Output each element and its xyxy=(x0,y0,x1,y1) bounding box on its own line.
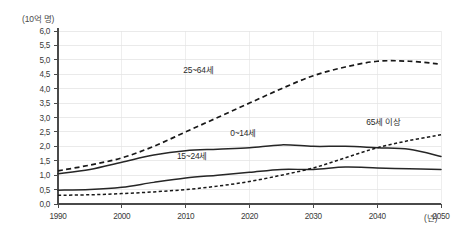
y-tick-label: 0,0 xyxy=(40,200,51,209)
y-tick-label: 3,0 xyxy=(40,114,51,123)
y-tick-label: 1,5 xyxy=(40,157,51,166)
y-tick-label: 4,0 xyxy=(40,85,51,94)
x-tick-label: 2030 xyxy=(305,212,323,221)
series-label: 0~14세 xyxy=(230,128,256,138)
y-tick-label: 0,5 xyxy=(40,186,51,195)
y-tick-label: 5,5 xyxy=(40,41,51,50)
series-label: 15~24세 xyxy=(177,151,207,161)
chart-plot-area: 0,00,51,01,52,02,53,03,54,04,55,05,56,0 … xyxy=(0,0,455,232)
population-projection-chart: (10억 명) 0,00,51,01,52,02,53,03,54,04,55,… xyxy=(0,0,455,232)
x-axis-unit-label: (년) xyxy=(424,213,438,223)
y-tick-label: 5,0 xyxy=(40,56,51,65)
y-tick-label: 3,5 xyxy=(40,99,51,108)
x-tick-label: 2020 xyxy=(241,212,259,221)
x-tick-label: 1990 xyxy=(49,212,67,221)
y-tick-label: 1,0 xyxy=(40,171,51,180)
x-tick-label: 2010 xyxy=(177,212,195,221)
x-tick-label: 2000 xyxy=(113,212,131,221)
y-axis-tick-labels: 0,00,51,01,52,02,53,03,54,04,55,05,56,0 xyxy=(40,27,51,209)
y-tick-label: 4,5 xyxy=(40,70,51,79)
y-tick-label: 6,0 xyxy=(40,27,51,36)
x-tick-label: 2040 xyxy=(369,212,387,221)
y-tick-label: 2,0 xyxy=(40,142,51,151)
x-axis-tick-labels: 1990200020102020203020402050 xyxy=(49,212,450,221)
y-tick-label: 2,5 xyxy=(40,128,51,137)
series-label: 25~64세 xyxy=(183,65,213,75)
series-label: 65세 이상 xyxy=(366,117,401,127)
